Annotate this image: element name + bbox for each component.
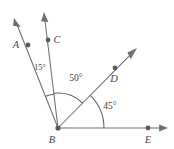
angle-label-DBE: 45° (103, 101, 117, 111)
angle-labels-group: 15° 50° 45° (34, 63, 117, 111)
point-label-C: C (53, 34, 61, 45)
point-dot-B (55, 125, 60, 130)
arc-angle-CBD (54, 93, 83, 103)
point-label-E: E (144, 134, 152, 145)
arrowhead-ray-BD (127, 48, 137, 59)
arrowhead-ray-BA (13, 18, 21, 27)
angle-diagram-figure: A C D E B 15° 50° 45° (0, 0, 174, 149)
point-dot-D (113, 66, 118, 71)
arc-angle-DBE (90, 95, 104, 128)
geometry-canvas: A C D E B 15° 50° 45° (0, 0, 174, 149)
angle-label-CBD: 50° (69, 73, 83, 83)
point-label-A: A (12, 39, 20, 50)
arrowhead-ray-BE (159, 124, 168, 131)
point-dot-C (46, 38, 51, 43)
point-dot-E (146, 126, 151, 131)
point-dot-A (26, 43, 31, 48)
ray-BD (58, 54, 132, 128)
arrowhead-ray-BC (41, 12, 48, 22)
rays-group (17, 19, 161, 128)
point-label-B: B (49, 134, 56, 145)
angle-label-ABC: 15° (34, 63, 45, 72)
point-label-D: D (109, 73, 118, 84)
arc-angle-ABC (45, 94, 54, 96)
